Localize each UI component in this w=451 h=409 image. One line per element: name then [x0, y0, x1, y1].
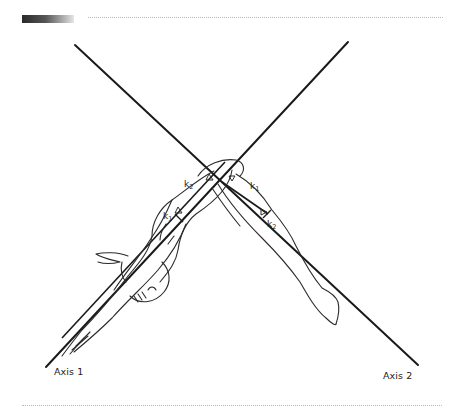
axis-1-label: Axis 1 [54, 366, 83, 377]
label-k1-leg: k1 [250, 181, 259, 193]
label-k1-upper: k1 [163, 211, 172, 223]
diver-upper-body [62, 170, 232, 356]
label-k2-leg: k2 [267, 219, 276, 231]
dive-axes-diagram: k2 k1 k1 k2 [0, 0, 451, 409]
bottom-dotted-rule [22, 405, 442, 406]
axis-1-line [46, 42, 348, 367]
diver-legs [198, 160, 339, 325]
label-k2-upper: k2 [184, 179, 193, 191]
axis-2-label: Axis 2 [383, 370, 412, 381]
axis-2-line [75, 45, 418, 365]
